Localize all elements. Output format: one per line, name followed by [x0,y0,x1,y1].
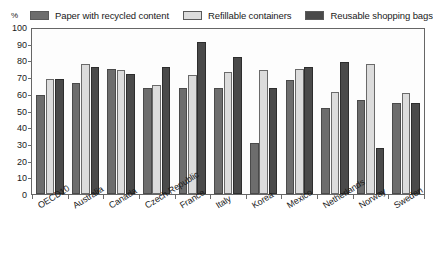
bar-australia-series1 [72,83,81,194]
bar-korea-series1 [250,143,259,194]
bar-norway-series2 [366,64,375,194]
bar-sweden-series3 [411,103,420,194]
bar-group-norway [353,29,389,194]
bar-korea-series2 [259,70,268,194]
bar-sweden-series1 [392,103,401,194]
y-tick-label-60: 60 [0,90,27,100]
x-tick-mark-5 [210,195,211,199]
x-tick-mark-11 [424,195,425,199]
legend-item-3: Reusable shopping bags [305,10,432,21]
y-tick-mark-80 [28,61,32,62]
legend-item-2: Refillable containers [183,10,291,21]
bar-australia-series3 [91,67,100,194]
y-tick-label-30: 30 [0,140,27,150]
bar-netherlands-series3 [340,62,349,194]
legend-label-2: Refillable containers [208,10,291,21]
bar-group-czech-republic [139,29,175,194]
bar-korea-series3 [269,88,278,194]
bar-group-sweden [388,29,424,194]
x-tick-label-italy: Italy [214,194,233,211]
bar-group-france [175,29,211,194]
bar-group-italy [210,29,246,194]
y-tick-mark-90 [28,45,32,46]
bar-group-mexico [281,29,317,194]
y-tick-mark-70 [28,78,32,79]
bar-group-canada [103,29,139,194]
bar-mexico-series3 [304,67,313,194]
legend-swatch-paper [30,11,49,20]
legend-label-1: Paper with recycled content [55,10,169,21]
bar-czech-republic-series3 [162,67,171,194]
x-tick-mark-7 [281,195,282,199]
y-tick-label-20: 20 [0,157,27,167]
legend-swatch-refillable [183,11,202,20]
bar-oecd10-series3 [55,79,64,195]
bar-sweden-series2 [402,93,411,194]
x-axis-tick-labels: OECD10AustraliaCanadaCzech RepublicFranc… [0,196,431,260]
bar-italy-series2 [224,72,233,194]
bar-italy-series3 [233,57,242,194]
bar-mexico-series1 [286,80,295,194]
y-axis-unit-label: % [11,11,18,20]
y-tick-label-80: 80 [0,56,27,66]
bar-group-netherlands [317,29,353,194]
bar-canada-series2 [117,70,126,194]
y-tick-mark-50 [28,112,32,113]
legend-item-1: Paper with recycled content [30,10,169,21]
x-tick-mark-10 [388,195,389,199]
y-tick-label-100: 100 [0,23,27,33]
bar-group-oecd10 [32,29,68,194]
x-tick-mark-6 [246,195,247,199]
bar-czech-republic-series2 [152,85,161,194]
bar-group-australia [68,29,104,194]
chart-title-fragment [0,0,431,5]
bar-group-korea [246,29,282,194]
x-tick-mark-2 [103,195,104,199]
chart-legend: Paper with recycled contentRefillable co… [30,7,428,23]
x-tick-mark-9 [353,195,354,199]
x-tick-mark-3 [139,195,140,199]
bar-mexico-series2 [295,69,304,194]
y-tick-mark-10 [28,178,32,179]
bar-italy-series1 [214,88,223,194]
y-tick-mark-60 [28,95,32,96]
y-tick-label-10: 10 [0,173,27,183]
bar-canada-series3 [126,74,135,194]
legend-swatch-bags [305,11,324,20]
y-tick-mark-20 [28,162,32,163]
legend-label-3: Reusable shopping bags [330,10,432,21]
bar-france-series3 [197,42,206,194]
bar-oecd10-series1 [36,95,45,194]
y-tick-label-50: 50 [0,107,27,117]
bar-canada-series1 [107,69,116,194]
x-tick-mark-1 [68,195,69,199]
bar-australia-series2 [81,64,90,194]
y-axis-tick-labels: 0102030405060708090100 [0,28,27,195]
bar-netherlands-series1 [321,108,330,194]
bar-netherlands-series2 [331,92,340,194]
y-tick-mark-30 [28,145,32,146]
y-tick-label-70: 70 [0,73,27,83]
bar-oecd10-series2 [46,79,55,195]
x-tick-mark-8 [317,195,318,199]
bar-czech-republic-series1 [143,88,152,194]
bars-layer [32,29,424,194]
x-tick-mark-4 [175,195,176,199]
x-tick-mark-0 [32,195,33,199]
y-tick-label-40: 40 [0,123,27,133]
y-tick-label-90: 90 [0,40,27,50]
y-tick-mark-40 [28,128,32,129]
